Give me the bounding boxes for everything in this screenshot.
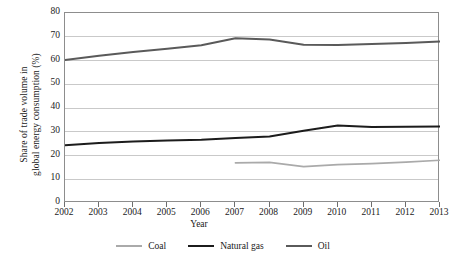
y-tick-label-40: 40	[36, 102, 60, 112]
chart-legend: CoalNatural gasOil	[0, 238, 446, 254]
series-line-oil	[65, 38, 440, 60]
legend-item-oil[interactable]: Oil	[286, 241, 330, 251]
y-tick-label-30: 30	[36, 126, 60, 136]
y-tick-label-60: 60	[36, 55, 60, 65]
x-tick-label-2005: 2005	[157, 206, 176, 218]
x-tick-label-2009: 2009	[293, 206, 312, 218]
legend-swatch-icon	[116, 245, 142, 248]
series-layer	[65, 13, 440, 203]
y-tick-label-70: 70	[36, 31, 60, 41]
x-tick-label-2012: 2012	[395, 206, 414, 218]
x-tick-label-2011: 2011	[361, 206, 380, 218]
y-tick-label-10: 10	[36, 174, 60, 184]
legend-swatch-icon	[286, 245, 312, 248]
x-tick-label-2006: 2006	[191, 206, 210, 218]
x-tick-label-2004: 2004	[123, 206, 142, 218]
legend-label: Coal	[148, 241, 166, 251]
x-axis-title: Year	[0, 219, 446, 229]
x-tick-label-2002: 2002	[55, 206, 74, 218]
y-tick-label-50: 50	[36, 79, 60, 89]
legend-label: Oil	[318, 241, 330, 251]
series-line-natural-gas	[65, 126, 440, 146]
y-axis-title-line1: Share of trade volume in	[19, 15, 31, 215]
series-line-coal	[235, 160, 440, 166]
x-axis-title-label: Year	[190, 219, 208, 229]
x-tick-label-2010: 2010	[327, 206, 346, 218]
y-tick-label-20: 20	[36, 150, 60, 160]
x-tick-label-2003: 2003	[89, 206, 108, 218]
legend-label: Natural gas	[220, 241, 264, 251]
y-tick-label-80: 80	[36, 7, 60, 17]
x-tick-label-2008: 2008	[259, 206, 278, 218]
x-tick-label-2007: 2007	[225, 206, 244, 218]
plot-area	[64, 12, 439, 202]
x-tick-label-2013: 2013	[430, 206, 449, 218]
x-axis-tick-labels: 2002200320042005200620072008200920102011…	[0, 206, 446, 220]
legend-item-natural-gas[interactable]: Natural gas	[188, 241, 264, 251]
legend-item-coal[interactable]: Coal	[116, 241, 166, 251]
legend-swatch-icon	[188, 245, 214, 248]
